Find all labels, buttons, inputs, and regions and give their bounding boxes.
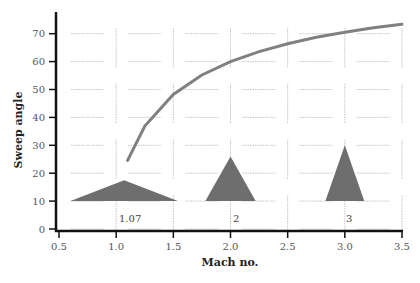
- x-tick-label: 2.0: [223, 241, 239, 252]
- x-tick-label: 3.0: [337, 241, 353, 252]
- y-axis-title: Sweep angle: [12, 92, 25, 169]
- y-tick-label: 10: [32, 196, 45, 207]
- chart-canvas: 010203040506070 0.51.01.52.02.53.03.5 Ma…: [0, 0, 420, 283]
- y-axis-ticks: 010203040506070: [32, 28, 56, 234]
- x-axis-title: Mach no.: [202, 256, 259, 269]
- y-tick-label: 50: [32, 84, 45, 95]
- x-tick-label: 3.5: [394, 241, 410, 252]
- x-tick-label: 0.5: [51, 241, 67, 252]
- x-tick-label: 1.0: [108, 241, 124, 252]
- wing-triangle-1: [70, 180, 177, 201]
- wing-label-3: 3: [346, 213, 352, 224]
- wing-label-2: 2: [233, 213, 239, 224]
- x-tick-label: 2.5: [280, 241, 296, 252]
- y-tick-label: 40: [32, 112, 45, 123]
- y-tick-label: 20: [32, 168, 45, 179]
- wing-triangle-3: [325, 145, 364, 201]
- x-axis-ticks: 0.51.01.52.02.53.03.5: [51, 231, 410, 252]
- wing-triangle-2: [205, 156, 255, 201]
- wing-label-1: 1.07: [119, 213, 141, 224]
- sweep-curve: [128, 24, 402, 160]
- sweep-angle-chart: 010203040506070 0.51.01.52.02.53.03.5 Ma…: [0, 0, 420, 283]
- y-tick-label: 70: [32, 28, 45, 39]
- y-tick-label: 30: [32, 140, 45, 151]
- y-tick-label: 0: [39, 224, 45, 235]
- x-tick-label: 1.5: [165, 241, 181, 252]
- y-tick-label: 60: [32, 56, 45, 67]
